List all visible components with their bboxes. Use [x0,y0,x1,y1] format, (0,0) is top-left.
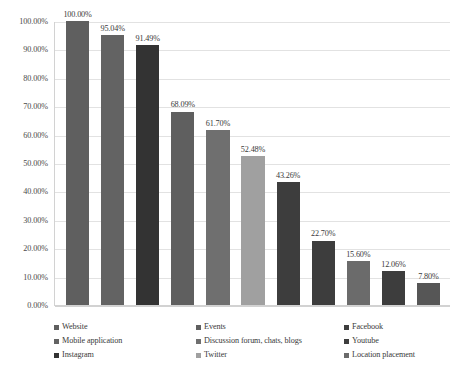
y-axis-tick-label: 30.00% [23,217,48,225]
legend-swatch-icon [344,353,349,358]
bar[interactable]: 61.70% [206,130,229,305]
bar-value-label: 7.80% [418,273,438,281]
legend-item[interactable]: Youtube [344,334,450,348]
legend-item[interactable]: Location placement [344,348,450,362]
bar[interactable]: 22.70% [312,241,335,305]
legend-item-label: Facebook [352,323,383,331]
legend-item-label: Website [62,323,87,331]
legend-item[interactable]: Mobile application [54,334,196,348]
y-axis: 0.00%10.00%20.00%30.00%40.00%50.00%60.00… [0,0,52,316]
y-axis-tick-label: 70.00% [23,103,48,111]
bar-slot: 43.26% [271,22,306,305]
legend-swatch-icon [344,325,349,330]
bar-value-label: 15.60% [346,251,370,259]
chart-legend: WebsiteMobile applicationInstagramEvents… [54,320,450,364]
legend-item[interactable]: Twitter [196,348,344,362]
bar-slot: 68.09% [165,22,200,305]
bar-value-label: 12.06% [381,261,405,269]
y-axis-tick-label: 90.00% [23,46,48,54]
bar-value-label: 61.70% [206,120,230,128]
legend-item[interactable]: Facebook [344,320,450,334]
legend-item-label: Discussion forum, chats, blogs [204,337,302,345]
bar-value-label: 22.70% [311,230,335,238]
bar-chart: 0.00%10.00%20.00%30.00%40.00%50.00%60.00… [0,0,458,367]
legend-item-label: Twitter [204,351,227,359]
legend-swatch-icon [54,339,59,344]
bar[interactable]: 43.26% [277,182,300,305]
bar-value-label: 95.04% [100,25,124,33]
legend-item-label: Mobile application [62,337,122,345]
legend-item-label: Events [204,323,226,331]
bar[interactable]: 91.49% [136,45,159,305]
bar-value-label: 43.26% [276,172,300,180]
legend-swatch-icon [196,353,201,358]
y-axis-tick-label: 0.00% [27,302,48,310]
bar-slot: 7.80% [411,22,446,305]
y-axis-tick-label: 100.00% [19,18,48,26]
bar[interactable]: 95.04% [101,35,124,305]
bar-series: 100.00%95.04%91.49%68.09%61.70%52.48%43.… [55,22,450,305]
y-axis-tick-label: 20.00% [23,245,48,253]
legend-swatch-icon [54,325,59,330]
plot-region: 0.00%10.00%20.00%30.00%40.00%50.00%60.00… [0,0,458,316]
legend-item[interactable]: Instagram [54,348,196,362]
bar-slot: 61.70% [200,22,235,305]
legend-swatch-icon [344,339,349,344]
y-axis-tick-label: 40.00% [23,188,48,196]
bar-slot: 100.00% [60,22,95,305]
legend-swatch-icon [196,325,201,330]
bar[interactable]: 52.48% [241,156,264,305]
bar-slot: 15.60% [341,22,376,305]
plot-area: 100.00%95.04%91.49%68.09%61.70%52.48%43.… [54,22,450,306]
y-axis-tick-label: 50.00% [23,160,48,168]
bar[interactable]: 15.60% [347,261,370,305]
legend-item[interactable]: Discussion forum, chats, blogs [196,334,344,348]
bar-slot: 12.06% [376,22,411,305]
legend-item-label: Youtube [352,337,379,345]
bar[interactable]: 12.06% [382,271,405,305]
legend-item[interactable]: Events [196,320,344,334]
legend-item[interactable]: Website [54,320,196,334]
y-axis-tick-label: 80.00% [23,75,48,83]
bar-value-label: 100.00% [63,11,91,19]
y-axis-tick-label: 10.00% [23,273,48,281]
legend-swatch-icon [196,339,201,344]
legend-swatch-icon [54,353,59,358]
bar-slot: 52.48% [235,22,270,305]
legend-item-label: Instagram [62,351,94,359]
bar-slot: 22.70% [306,22,341,305]
bar[interactable]: 68.09% [171,112,194,305]
bar-value-label: 91.49% [136,35,160,43]
y-axis-tick-label: 60.00% [23,131,48,139]
bar[interactable]: 7.80% [417,283,440,305]
legend-item-label: Location placement [352,351,415,359]
bar[interactable]: 100.00% [66,21,89,305]
bar-slot: 91.49% [130,22,165,305]
gridline [55,306,450,307]
bar-slot: 95.04% [95,22,130,305]
bar-value-label: 68.09% [171,101,195,109]
bar-value-label: 52.48% [241,146,265,154]
